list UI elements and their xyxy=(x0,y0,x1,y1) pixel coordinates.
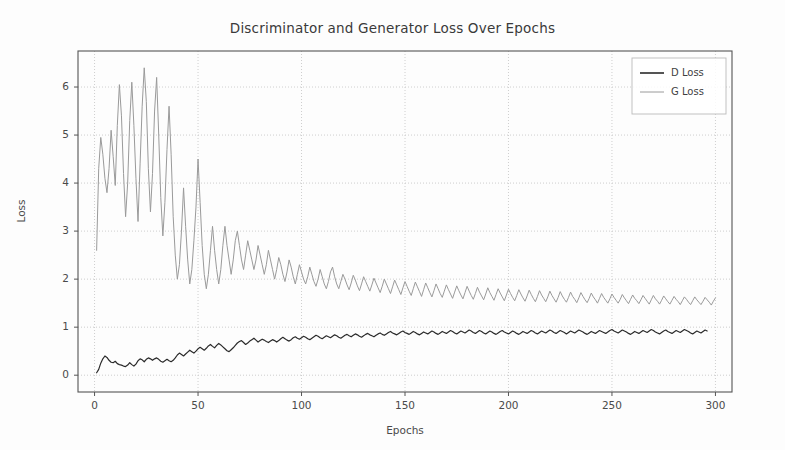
series-line-d-loss xyxy=(97,330,708,373)
x-tick-label: 0 xyxy=(91,399,98,411)
x-tick-label: 250 xyxy=(602,399,622,411)
y-tick-label: 3 xyxy=(62,224,69,236)
x-tick-label: 50 xyxy=(191,399,204,411)
x-tick-label: 200 xyxy=(498,399,518,411)
x-tick-label: 150 xyxy=(395,399,415,411)
y-tick-label: 2 xyxy=(62,272,69,284)
legend-label-g-loss: G Loss xyxy=(671,86,704,97)
chart-legend: D LossG Loss xyxy=(632,58,726,114)
y-tick-label: 4 xyxy=(62,176,69,188)
chart-figure: Discriminator and Generator Loss Over Ep… xyxy=(0,0,785,450)
y-tick-label: 1 xyxy=(62,320,69,332)
y-tick-label: 6 xyxy=(62,80,69,92)
legend-label-d-loss: D Loss xyxy=(671,67,704,78)
series-line-g-loss xyxy=(97,68,716,305)
x-tick-label: 300 xyxy=(705,399,725,411)
y-tick-label: 5 xyxy=(62,128,69,140)
y-tick-label: 0 xyxy=(62,368,69,380)
x-tick-label: 100 xyxy=(291,399,311,411)
plot-area: 0123456050100150200250300 D LossG Loss xyxy=(0,0,785,450)
